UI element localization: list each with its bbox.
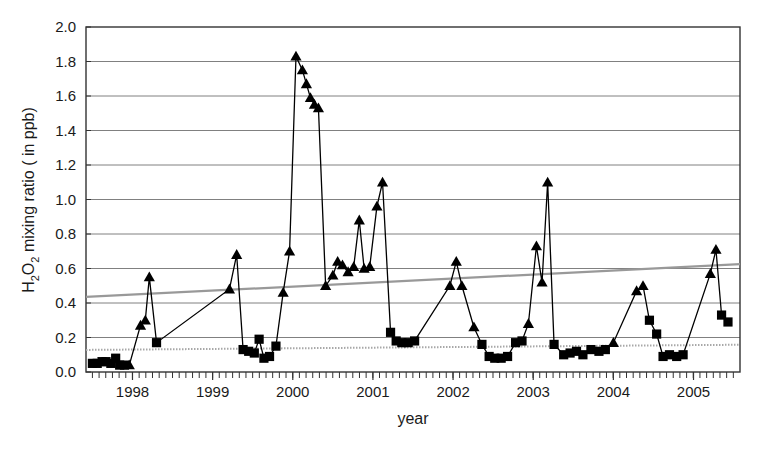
y-tick-label: 0.0	[55, 363, 76, 380]
data-point-square	[517, 336, 526, 345]
y-tick-label: 0.2	[55, 329, 76, 346]
data-point-triangle	[608, 337, 619, 347]
data-point-triangle	[301, 78, 312, 88]
data-point-square	[645, 316, 654, 325]
data-point-square	[578, 350, 587, 359]
y-axis-title-mid: O	[20, 263, 37, 275]
data-point-triangle	[468, 322, 479, 332]
y-tick-label: 0.4	[55, 294, 76, 311]
data-point-triangle	[327, 270, 338, 280]
data-point-square	[503, 352, 512, 361]
data-point-triangle	[354, 215, 365, 225]
x-tick-label: 2005	[677, 383, 710, 400]
y-tick-label: 1.4	[55, 122, 76, 139]
y-tick-label: 0.6	[55, 260, 76, 277]
data-point-triangle	[144, 272, 155, 282]
x-axis-minor-ticks	[92, 372, 733, 378]
y-tick-label: 2.0	[55, 18, 76, 35]
data-point-triangle	[297, 65, 308, 75]
data-point-triangle	[531, 240, 542, 250]
x-tick-label: 2000	[276, 383, 309, 400]
data-point-triangle	[231, 249, 242, 259]
y-tick-label: 1.0	[55, 191, 76, 208]
data-point-square	[549, 340, 558, 349]
data-point-square	[678, 350, 687, 359]
data-point-square	[586, 345, 595, 354]
data-point-square	[255, 335, 264, 344]
x-tick-label: 1999	[196, 383, 229, 400]
data-point-triangle	[542, 177, 553, 187]
data-point-square	[152, 338, 161, 347]
data-series-layer	[88, 51, 733, 370]
x-tick-label: 2003	[517, 383, 550, 400]
data-point-triangle	[637, 280, 648, 290]
y-axis-title-post: mixing ratio ( in ppb)	[20, 107, 37, 256]
data-point-square	[477, 340, 486, 349]
series-connector-line	[92, 56, 728, 365]
h2o2-timeseries-chart: 0.00.20.40.60.81.01.21.41.61.82.0 199819…	[0, 0, 757, 457]
data-point-triangle	[348, 261, 359, 271]
data-point-triangle	[290, 51, 301, 61]
data-point-triangle	[456, 280, 467, 290]
data-point-square	[271, 342, 280, 351]
x-tick-label: 2001	[356, 383, 389, 400]
data-point-square	[265, 352, 274, 361]
gridlines	[86, 62, 740, 338]
data-point-triangle	[284, 246, 295, 256]
x-tick-label: 2002	[436, 383, 469, 400]
data-point-triangle	[371, 201, 382, 211]
y-tick-label: 1.6	[55, 87, 76, 104]
y-tick-label: 1.2	[55, 156, 76, 173]
trendline-upper-trend	[86, 264, 740, 297]
svg-text:H2O2 mixing ratio ( in ppb): H2O2 mixing ratio ( in ppb)	[20, 107, 41, 293]
data-point-triangle	[278, 287, 289, 297]
data-point-square	[652, 329, 661, 338]
x-tick-label: 1998	[116, 383, 149, 400]
data-point-triangle	[377, 177, 388, 187]
y-axis-title: H2O2 mixing ratio ( in ppb)	[20, 107, 41, 293]
chart-container: 0.00.20.40.60.81.01.21.41.61.82.0 199819…	[0, 0, 757, 457]
data-point-triangle	[705, 268, 716, 278]
x-tick-label: 2004	[597, 383, 630, 400]
data-point-triangle	[523, 318, 534, 328]
data-point-triangle	[536, 277, 547, 287]
data-point-triangle	[451, 256, 462, 266]
data-point-square	[723, 317, 732, 326]
data-point-triangle	[710, 244, 721, 254]
y-tick-label: 0.8	[55, 225, 76, 242]
data-point-triangle	[140, 315, 151, 325]
y-tick-label: 1.8	[55, 53, 76, 70]
data-point-triangle	[444, 280, 455, 290]
data-point-square	[386, 328, 395, 337]
y-axis-title-pre: H	[20, 281, 37, 293]
data-point-square	[250, 348, 259, 357]
data-point-square	[410, 336, 419, 345]
x-axis-title: year	[397, 410, 429, 427]
